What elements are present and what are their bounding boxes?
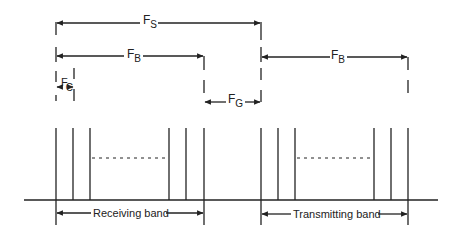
band-allocation-diagram: FS FB FB FC FG Receiving band Transmitti…	[0, 0, 459, 234]
fb-tx-label: FB	[331, 48, 345, 65]
fb-rx-label: FB	[127, 47, 141, 64]
fs-label: FS	[143, 13, 157, 30]
fg-label: FG	[228, 92, 243, 109]
receiving-band-label: Receiving band	[93, 207, 169, 219]
transmitting-band-label: Transmitting band	[293, 208, 381, 220]
fc-label: FC	[61, 76, 73, 93]
fs-dimension	[56, 22, 261, 40]
